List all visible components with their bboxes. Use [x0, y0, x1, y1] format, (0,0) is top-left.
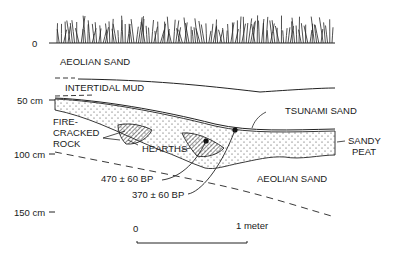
depth-label-100: 100 cm	[14, 149, 45, 160]
scale-start-label: 0	[133, 223, 138, 234]
tsunami-sand-label: TSUNAMI SAND	[285, 105, 357, 116]
scale-end-label: 1 meter	[236, 220, 268, 231]
scale-bar	[137, 241, 247, 243]
date-470-label: 470 ± 60 BP	[101, 173, 153, 184]
depth-label-0: 0	[32, 38, 37, 49]
sandy-peat-label-1: SANDY	[348, 135, 381, 146]
date-370-label: 370 ± 60 BP	[132, 189, 184, 200]
fire-cracked-rock-label-2: CRACKED	[53, 127, 100, 138]
fire-cracked-rock-label-1: FIRE-	[53, 116, 78, 127]
aeolian-sand-top-label: AEOLIAN SAND	[60, 56, 130, 67]
sandy-peat-label-2: PEAT	[352, 146, 376, 157]
intertidal-mud-bottom-boundary	[55, 95, 95, 96]
depth-label-150: 150 cm	[14, 207, 45, 218]
grass-surface	[55, 15, 335, 43]
aeolian-sand-bottom-label: AEOLIAN SAND	[257, 173, 327, 184]
hearths-label: HEARTHS	[142, 143, 187, 154]
fire-cracked-rock-label-3: ROCK	[53, 138, 81, 149]
depth-label-50: 50 cm	[17, 95, 43, 106]
intertidal-mud-label: INTERTIDAL MUD	[65, 82, 144, 93]
tsunami-sand-leader	[252, 112, 266, 128]
sandy-peat-leader	[337, 141, 345, 142]
stratigraphy-diagram: 0 50 cm 100 cm 150 cm AEOLIAN SAND INTER…	[0, 0, 393, 253]
